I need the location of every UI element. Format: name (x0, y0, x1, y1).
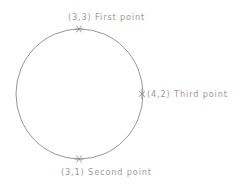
asterisk-marker-first-point (75, 26, 84, 33)
point-label-third: (4,2) Third point (147, 89, 228, 99)
circle-outline (16, 29, 143, 159)
point-label-second: (3,1) Second point (61, 167, 152, 177)
figure-canvas: (3,3) First point (4,2) Third point (3,1… (0, 0, 245, 184)
asterisk-marker-second-point (75, 156, 84, 163)
point-label-first: (3,3) First point (68, 12, 145, 22)
asterisk-marker-third-point (139, 89, 145, 99)
